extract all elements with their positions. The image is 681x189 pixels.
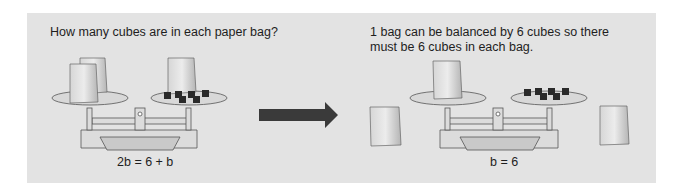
equation-left: 2b = 6 + b — [117, 155, 173, 169]
scale-base-right — [440, 108, 558, 150]
equation-right: b = 6 — [490, 155, 518, 169]
right-balance-scale — [0, 0, 681, 189]
removed-paper-bag-icon — [600, 106, 629, 145]
paper-bag-icon — [433, 61, 462, 99]
removed-paper-bag-icon — [370, 107, 401, 146]
